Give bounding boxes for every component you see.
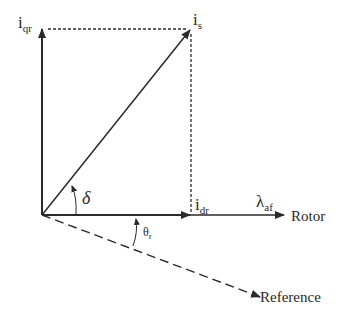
lambda-af-label: λaf [256,192,273,213]
delta-label: δ [82,188,91,208]
is-vector-arrow [42,30,190,215]
reference-label: Reference [260,289,321,305]
delta-angle-arc [72,186,76,214]
rotor-label: Rotor [291,208,325,224]
theta-r-label: θr [143,225,152,241]
is-label: is [193,10,202,31]
theta-r-angle-arc [133,219,137,246]
iqr-label: iqr [18,13,32,34]
idr-label: idr [195,195,209,216]
vector-diagram: iqr is idr λaf Rotor Reference δ θr [0,0,346,320]
reference-axis-dashed-arrow [42,215,260,297]
